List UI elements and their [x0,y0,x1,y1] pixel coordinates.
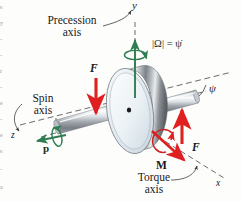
edge-text-fragment: r [0,68,2,74]
y-axis-label: y [132,0,137,12]
torque-axis-label-line2: axis [124,183,184,195]
edge-text-fragment: a [0,184,2,190]
gyroscope-figure: Precession axis y |Ω| = ψ̇ Spin axis z p… [0,0,241,202]
edge-text-fragment: - [0,166,2,172]
spin-loop-arrow [54,128,60,129]
edge-text-fragment: s [0,4,2,10]
edge-text-fragment: s [0,148,2,154]
precession-axis-label-line1: Precession [37,14,107,26]
torque-axis-label-line1: Torque [124,171,184,183]
z-axis-label: z [11,131,15,141]
edge-text-fragment: e [0,100,2,106]
torque-arrow [152,131,184,160]
edge-text-fragment: y [0,20,3,26]
torque-axis-label: Torque axis [124,171,184,195]
edge-text-fragment: - [0,116,2,122]
spin-vector-label: p [43,143,49,155]
flywheel-assembly [53,65,201,157]
edge-text-fragment: e [0,132,2,138]
force-left-label: F [90,62,98,74]
torque-vector-label: M [156,159,167,171]
psi-angle-label: ψ [209,83,216,95]
precession-axis-label: Precession axis [37,14,107,38]
spin-axis-label-line2: axis [20,104,66,116]
psi-angle-arc [198,85,206,97]
precession-rate-formula: |Ω| = ψ̇ [152,38,182,49]
force-right-label: F [192,141,200,153]
edge-text-fragment: - [0,36,2,42]
disk-hub [127,107,131,112]
precession-axis-label-line2: axis [37,26,107,38]
edge-text-fragment: - [0,84,2,90]
flywheel-disk [101,65,168,157]
precession-loop-arrow [145,53,147,59]
precession-label-pointer [103,11,131,26]
spin-axis-label-line1: Spin [20,92,66,104]
x-axis-label: x [216,179,220,189]
spin-axis-label: Spin axis [20,92,66,116]
edge-text-fragment: - [0,52,2,58]
